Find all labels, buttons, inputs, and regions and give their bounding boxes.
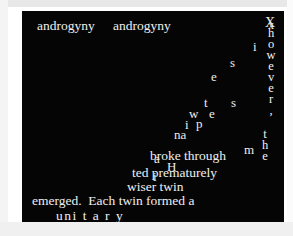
- line-ted-prematurely: ted prematurely: [132, 166, 217, 180]
- line-broke-through: broke through: [150, 149, 226, 163]
- line-unitary: uni t a r y: [56, 209, 124, 222]
- the-letter-2: e: [257, 151, 273, 162]
- line-wiser-twin: wiser twin: [127, 180, 184, 194]
- frame-edge-left: [0, 0, 8, 236]
- scattered-letter: s: [230, 56, 235, 69]
- scattered-letter: s: [231, 96, 236, 109]
- scattered-letter: t: [204, 96, 208, 109]
- word-androgyny-1: androgyny: [37, 19, 95, 33]
- poem-canvas: androgyny androgyny X x h o w e v e r , …: [22, 11, 284, 222]
- word-androgyny-2: androgyny: [113, 19, 171, 33]
- scattered-letter: e: [211, 70, 217, 83]
- frame-edge-top: [0, 0, 293, 7]
- frame-edge-bottom: [0, 222, 293, 236]
- screenshot-stage: androgyny androgyny X x h o w e v e r , …: [0, 0, 293, 236]
- vertical-word-the: t h e: [257, 129, 273, 162]
- scattered-letter: i: [253, 40, 257, 53]
- however-letter-7: ,: [262, 105, 280, 116]
- scattered-letter: m: [244, 143, 254, 156]
- frame-edge-right: [287, 0, 293, 236]
- scattered-letter: e: [209, 107, 215, 120]
- scattered-letter: p: [196, 117, 203, 130]
- line-emerged-each-twin: emerged. Each twin formed a: [32, 194, 194, 208]
- scattered-letter: na: [174, 128, 186, 141]
- vertical-word-however: h o w e v e r ,: [262, 28, 280, 116]
